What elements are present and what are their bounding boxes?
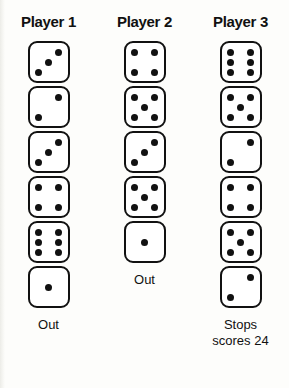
die-face-2 (220, 131, 262, 173)
die-pip (131, 94, 138, 101)
die-pip (45, 284, 52, 291)
die-pip (151, 114, 158, 121)
die-pip (141, 104, 148, 111)
player-column-3: Player 3Stops scores 24 (205, 14, 277, 388)
die-pip (55, 204, 62, 211)
die-face-5 (220, 221, 262, 263)
die-pip (237, 104, 244, 111)
die-pip (227, 229, 234, 236)
die-pip (247, 69, 254, 76)
die-pip (35, 159, 42, 166)
die-face-5 (124, 86, 166, 128)
die-pip (247, 229, 254, 236)
die-face-3 (124, 131, 166, 173)
die-pip (35, 239, 42, 246)
dice-game-board: Player 1OutPlayer 2OutPlayer 3Stops scor… (0, 0, 289, 388)
die-pip (247, 94, 254, 101)
player-status-label: Out (38, 317, 59, 333)
die-pip (227, 49, 234, 56)
die-pip (131, 159, 138, 166)
die-pip (247, 249, 254, 256)
die-pip (237, 239, 244, 246)
die-pip (55, 249, 62, 256)
die-pip (131, 184, 138, 191)
die-pip (55, 229, 62, 236)
die-pip (35, 69, 42, 76)
die-pip (35, 229, 42, 236)
die-face-2 (220, 266, 262, 308)
die-pip (35, 249, 42, 256)
die-face-2 (28, 86, 70, 128)
die-pip (55, 49, 62, 56)
player-status-label: Stops scores 24 (212, 317, 268, 348)
die-face-5 (220, 86, 262, 128)
die-pip (55, 184, 62, 191)
die-pip (131, 69, 138, 76)
die-pip (247, 59, 254, 66)
die-pip (227, 59, 234, 66)
die-pip (227, 249, 234, 256)
die-pip (35, 114, 42, 121)
die-pip (151, 204, 158, 211)
player-status-label: Out (134, 272, 155, 288)
die-face-4 (28, 176, 70, 218)
player-column-2: Player 2Out (109, 14, 181, 388)
die-pip (131, 114, 138, 121)
die-pip (247, 49, 254, 56)
die-pip (45, 149, 52, 156)
dice-stack (220, 41, 262, 308)
die-pip (35, 204, 42, 211)
die-pip (247, 204, 254, 211)
die-pip (55, 139, 62, 146)
die-pip (151, 94, 158, 101)
die-pip (227, 204, 234, 211)
die-face-3 (28, 131, 70, 173)
player-column-title: Player 3 (213, 14, 268, 29)
die-face-1 (28, 266, 70, 308)
die-pip (151, 184, 158, 191)
player-column-1: Player 1Out (13, 14, 85, 388)
die-face-6 (28, 221, 70, 263)
die-pip (227, 69, 234, 76)
die-face-3 (28, 41, 70, 83)
die-face-5 (124, 176, 166, 218)
die-pip (141, 194, 148, 201)
die-pip (55, 94, 62, 101)
die-pip (227, 114, 234, 121)
die-pip (247, 184, 254, 191)
die-pip (45, 59, 52, 66)
die-pip (247, 139, 254, 146)
die-pip (131, 49, 138, 56)
die-face-4 (124, 41, 166, 83)
player-column-title: Player 1 (21, 14, 76, 29)
die-pip (227, 159, 234, 166)
die-pip (131, 204, 138, 211)
die-pip (141, 149, 148, 156)
die-pip (247, 274, 254, 281)
die-pip (151, 49, 158, 56)
die-pip (227, 94, 234, 101)
die-face-1 (124, 221, 166, 263)
die-pip (227, 184, 234, 191)
die-pip (141, 239, 148, 246)
die-face-4 (220, 176, 262, 218)
player-column-title: Player 2 (117, 14, 172, 29)
die-pip (55, 239, 62, 246)
dice-stack (28, 41, 70, 308)
die-pip (35, 184, 42, 191)
die-pip (227, 294, 234, 301)
die-pip (247, 114, 254, 121)
die-pip (151, 139, 158, 146)
die-pip (151, 69, 158, 76)
dice-stack (124, 41, 166, 263)
die-face-6 (220, 41, 262, 83)
